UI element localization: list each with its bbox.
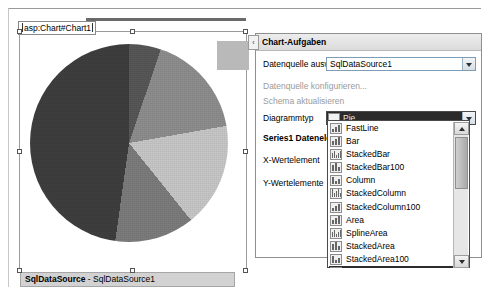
dropdown-item-stackedbar100[interactable]: StackedBar100 [329, 161, 453, 174]
dropdown-item-label: Bar [346, 136, 359, 146]
datasource-combobox-value: SqlDataSource1 [330, 58, 392, 71]
resize-handle-bottom-left[interactable] [17, 268, 22, 273]
resize-handle-top-center[interactable] [130, 29, 135, 34]
dropdown-item-label: SplineArea [346, 228, 388, 238]
stackedcolumn-icon [330, 188, 342, 199]
dropdown-item-area[interactable]: Area [329, 214, 453, 227]
datasource-separator: - [85, 274, 93, 284]
dropdown-item-label: StackedBar [346, 149, 390, 159]
dropdown-item-pie[interactable]: Pie [329, 266, 453, 268]
chart-type-label: Diagrammtyp [263, 109, 314, 127]
dropdown-item-bar[interactable]: Bar [329, 135, 453, 148]
pie-chart[interactable] [30, 44, 228, 242]
resize-handle-top-left[interactable] [17, 29, 22, 34]
dropdown-item-stackedcolumn100[interactable]: StackedColumn100 [329, 201, 453, 214]
dropdown-item-stackedcolumn[interactable]: StackedColumn [329, 187, 453, 200]
stackedbar-icon [330, 149, 342, 160]
scroll-up-arrow-icon[interactable] [454, 122, 469, 135]
dropdown-item-label: Column [346, 175, 375, 185]
scrollbar-thumb[interactable] [455, 137, 468, 189]
resize-handle-bottom-center[interactable] [130, 268, 135, 273]
stackedarea100-icon [330, 254, 342, 265]
control-tag-label: asp:Chart#Chart1 [18, 21, 96, 35]
scroll-down-arrow-icon[interactable] [454, 255, 469, 268]
chart-type-dropdown-list[interactable]: FastLineBarStackedBarStackedBar100Column… [327, 120, 470, 268]
column-icon [330, 175, 342, 186]
text-caret-end [92, 23, 93, 32]
pie-icon [330, 267, 342, 268]
dropdown-item-label: StackedBar100 [346, 162, 404, 172]
resize-handle-middle-right[interactable] [243, 149, 248, 154]
resize-handle-middle-left[interactable] [17, 149, 22, 154]
dropdown-item-label: StackedColumn [346, 188, 406, 198]
pie-texture-overlay [30, 44, 228, 242]
dropdown-item-fastline[interactable]: FastLine [329, 122, 453, 135]
panel-collapse-button[interactable]: ‹ [248, 35, 259, 50]
fastline-icon [330, 123, 342, 134]
stackedcolumn100-icon [330, 202, 342, 213]
datasource-control-id: SqlDataSource1 [93, 274, 155, 284]
stackedbar100-icon [330, 162, 342, 173]
splinearea-icon [330, 228, 342, 239]
row-refresh-schema: Schema aktualisieren [256, 92, 481, 110]
datasource-control-name: SqlDataSource [25, 274, 85, 284]
web-form-designer-surface[interactable]: asp:Chart#Chart1 SqlDataSource - SqlData… [8, 8, 481, 287]
y-value-members-label: Y-Wertelemente [263, 174, 323, 192]
resize-handle-bottom-right[interactable] [243, 268, 248, 273]
panel-title: Chart-Aufgaben [256, 34, 481, 51]
dropdown-item-label: Pie [346, 267, 358, 268]
dropdown-scrollbar[interactable] [453, 122, 468, 268]
dropdown-item-stackedarea100[interactable]: StackedArea100 [329, 253, 453, 266]
row-select-datasource: Datenquelle auswählen: SqlDataSource1 [256, 55, 481, 73]
chevron-down-icon[interactable] [462, 58, 475, 70]
datasource-control-strip[interactable]: SqlDataSource - SqlDataSource1 [20, 272, 235, 287]
tag-top-bar [86, 18, 246, 21]
control-tag-text: asp:Chart#Chart1 [24, 23, 91, 33]
dropdown-item-stackedarea[interactable]: StackedArea [329, 240, 453, 253]
area-icon [330, 215, 342, 226]
dropdown-item-column[interactable]: Column [329, 174, 453, 187]
dropdown-item-stackedbar[interactable]: StackedBar [329, 148, 453, 161]
chevron-left-icon: ‹ [252, 39, 254, 46]
bar-icon [330, 136, 342, 147]
refresh-schema-link[interactable]: Schema aktualisieren [263, 92, 344, 110]
dropdown-item-label: Area [346, 215, 364, 225]
resize-handle-top-right[interactable] [243, 29, 248, 34]
dropdown-item-splinearea[interactable]: SplineArea [329, 227, 453, 240]
stackedarea-icon [330, 241, 342, 252]
dropdown-item-label: StackedArea [346, 241, 395, 251]
dropdown-item-label: StackedArea100 [346, 254, 409, 264]
dropdown-item-label: StackedColumn100 [346, 202, 420, 212]
dropdown-item-label: FastLine [346, 123, 379, 133]
dropdown-items-container[interactable]: FastLineBarStackedBarStackedBar100Column… [329, 122, 453, 268]
x-value-member-label: X-Wertelement [263, 151, 320, 169]
text-caret [22, 23, 23, 32]
smart-tag-glyph-block[interactable] [217, 41, 249, 70]
datasource-combobox[interactable]: SqlDataSource1 [326, 57, 476, 71]
